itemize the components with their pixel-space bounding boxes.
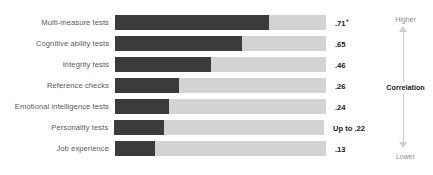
row-value: Up to .22 bbox=[324, 122, 365, 132]
row-value-suffix: + bbox=[346, 17, 350, 23]
bar-fill bbox=[115, 141, 155, 156]
arrow-down-icon bbox=[399, 142, 407, 148]
table-row: Emotional intelligence tests .24 bbox=[0, 99, 365, 114]
chart-rows: Multi-measure tests .71+ Cognitive abili… bbox=[0, 15, 365, 162]
table-row: Personality tests Up to .22 bbox=[0, 120, 365, 135]
bar-fill bbox=[115, 36, 242, 51]
bar-track bbox=[115, 15, 326, 30]
row-value-number: .71 bbox=[335, 19, 346, 28]
row-value: .46 bbox=[326, 59, 346, 69]
row-label-reference-checks: Reference checks bbox=[0, 82, 115, 90]
bar-track bbox=[115, 57, 326, 72]
row-label-job-experience: Job experience bbox=[0, 145, 115, 153]
bar-fill bbox=[115, 78, 179, 93]
table-row: Cognitive ability tests .65 bbox=[0, 36, 365, 51]
row-value-number: .65 bbox=[335, 40, 346, 49]
axis-label-higher: Higher bbox=[378, 16, 433, 23]
row-value: .71+ bbox=[326, 17, 349, 27]
bar-fill bbox=[114, 120, 163, 135]
row-value: .26 bbox=[326, 80, 346, 90]
bar-track bbox=[115, 36, 326, 51]
bar-track bbox=[115, 141, 326, 156]
bar-fill bbox=[115, 15, 269, 30]
row-label-personality-tests: Personality tests bbox=[0, 124, 114, 132]
row-value-number: .46 bbox=[335, 61, 346, 70]
row-label-multi-measure-tests: Multi-measure tests bbox=[0, 19, 115, 27]
axis-label-correlation: Correlation bbox=[378, 82, 433, 93]
row-label-cognitive-ability-tests: Cognitive ability tests bbox=[0, 40, 115, 48]
bar-track bbox=[115, 78, 326, 93]
row-label-emotional-intelligence-tests: Emotional intelligence tests bbox=[0, 103, 115, 111]
row-value-number: .26 bbox=[335, 82, 346, 91]
row-value: .13 bbox=[326, 143, 346, 153]
table-row: Integrity tests .46 bbox=[0, 57, 365, 72]
row-value: .24 bbox=[326, 101, 346, 111]
row-value-number: .24 bbox=[335, 103, 346, 112]
correlation-bar-chart: Multi-measure tests .71+ Cognitive abili… bbox=[0, 0, 433, 175]
table-row: Reference checks .26 bbox=[0, 78, 365, 93]
row-value: .65 bbox=[326, 38, 346, 48]
bar-track bbox=[115, 99, 326, 114]
row-value-number: Up to .22 bbox=[333, 124, 365, 133]
table-row: Multi-measure tests .71+ bbox=[0, 15, 365, 30]
bar-fill bbox=[115, 99, 169, 114]
table-row: Job experience .13 bbox=[0, 141, 365, 156]
row-value-number: .13 bbox=[335, 145, 346, 154]
bar-track bbox=[114, 120, 324, 135]
axis-label-lower: Lower bbox=[378, 153, 433, 160]
row-label-integrity-tests: Integrity tests bbox=[0, 61, 115, 69]
correlation-axis-legend: Higher Correlation Lower bbox=[378, 14, 433, 164]
bar-fill bbox=[115, 57, 211, 72]
